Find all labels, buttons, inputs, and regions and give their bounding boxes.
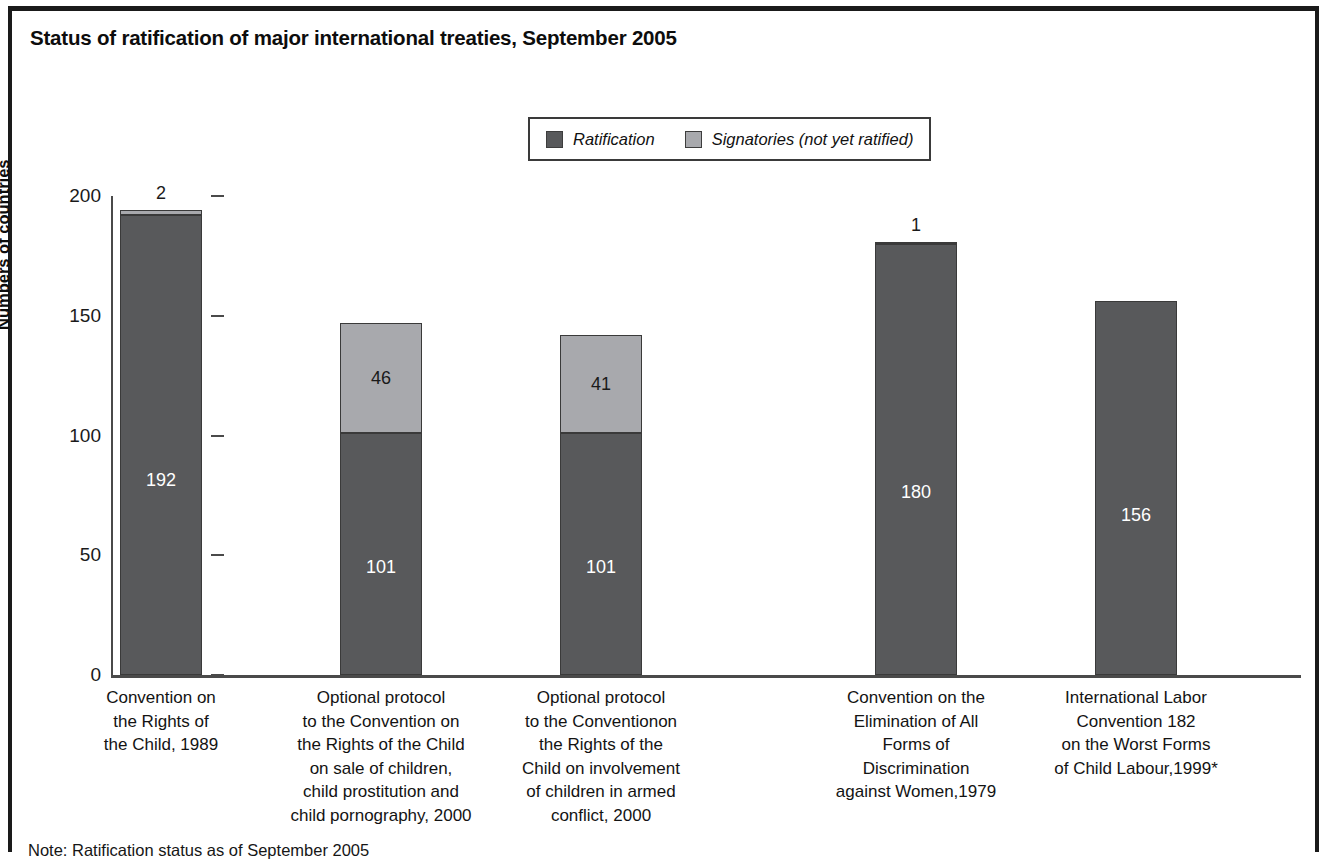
bar-segment-ratification[interactable] xyxy=(340,433,422,675)
x-axis-label-line: the Child, 1989 xyxy=(53,733,269,757)
x-axis-label-line: the Rights of the Child xyxy=(273,733,489,757)
bar-segment-signatories[interactable] xyxy=(340,323,422,433)
x-axis-label-line: to the Convention on xyxy=(273,710,489,734)
chart-title: Status of ratification of major internat… xyxy=(30,26,677,50)
y-tick-mark xyxy=(211,674,224,676)
bar-segment-signatories[interactable] xyxy=(120,210,202,215)
x-axis-label-line: Child on involvement xyxy=(493,757,709,781)
x-axis-label-line: against Women,1979 xyxy=(808,780,1024,804)
bar-segment-ratification[interactable] xyxy=(1095,301,1177,675)
bar-value-signatories: 2 xyxy=(120,183,202,204)
x-axis-label-line: conflict, 2000 xyxy=(493,804,709,828)
frame-top-rule xyxy=(8,6,1319,11)
y-tick-mark xyxy=(211,315,224,317)
x-axis-label-line: the Rights of xyxy=(53,710,269,734)
chart-footnote: Note: Ratification status as of Septembe… xyxy=(28,841,369,860)
bar-segment-ratification[interactable] xyxy=(560,433,642,675)
x-axis-label-line: the Rights of the xyxy=(493,733,709,757)
x-axis-label-line: Optional protocol xyxy=(273,686,489,710)
x-axis-label-line: Convention on the xyxy=(808,686,1024,710)
legend-label-signatories: Signatories (not yet ratified) xyxy=(712,130,914,149)
bar-optional-protocol-armed-conflict-2000[interactable]: 10141 xyxy=(560,196,642,675)
x-axis-label-line: of Child Labour,1999* xyxy=(1028,757,1244,781)
legend-item-signatories: Signatories (not yet ratified) xyxy=(685,130,914,149)
x-axis-label-line: Elimination of All xyxy=(808,710,1024,734)
x-axis-label: International LaborConvention 182on the … xyxy=(1028,686,1244,780)
x-axis-label-line: child prostitution and xyxy=(273,780,489,804)
x-axis-label-line: Convention 182 xyxy=(1028,710,1244,734)
bar-optional-protocol-sale-of-children-2000[interactable]: 10146 xyxy=(340,196,422,675)
y-tick-label: 200 xyxy=(11,185,101,207)
y-tick-label: 150 xyxy=(11,305,101,327)
x-axis-label-line: of children in armed xyxy=(493,780,709,804)
x-axis-label-line: International Labor xyxy=(1028,686,1244,710)
y-tick-mark xyxy=(211,195,224,197)
bar-segment-signatories[interactable] xyxy=(875,242,957,244)
bar-ilo-convention-182-1999[interactable]: 156 xyxy=(1095,196,1177,675)
x-axis-label: Convention onthe Rights ofthe Child, 198… xyxy=(53,686,269,757)
x-axis-label-line: Convention on xyxy=(53,686,269,710)
chart-legend: Ratification Signatories (not yet ratifi… xyxy=(528,117,931,161)
legend-swatch-ratification xyxy=(546,131,563,148)
x-axis-label: Convention on theElimination of AllForms… xyxy=(808,686,1024,804)
x-axis-label-line: on the Worst Forms xyxy=(1028,733,1244,757)
x-axis-label-line: Discrimination xyxy=(808,757,1024,781)
legend-label-ratification: Ratification xyxy=(573,130,655,149)
y-tick-label: 100 xyxy=(11,425,101,447)
bar-value-signatories: 1 xyxy=(875,215,957,236)
x-axis-label-line: Optional protocol xyxy=(493,686,709,710)
bar-convention-rights-child-1989[interactable]: 1922 xyxy=(120,196,202,675)
plot-area: 050100150200 192210146101411801156 xyxy=(112,196,1298,675)
x-axis-label: Optional protocolto the Convention onthe… xyxy=(273,686,489,827)
x-axis-line xyxy=(111,675,1301,678)
y-tick-mark xyxy=(211,435,224,437)
frame-right-rule xyxy=(1315,6,1319,852)
x-axis-label-line: on sale of children, xyxy=(273,757,489,781)
x-axis-label: Optional protocolto the Conventiononthe … xyxy=(493,686,709,827)
bar-cedaw-1979[interactable]: 1801 xyxy=(875,196,957,675)
bar-segment-signatories[interactable] xyxy=(560,335,642,433)
bar-segment-ratification[interactable] xyxy=(120,215,202,675)
y-tick-label: 0 xyxy=(11,664,101,686)
legend-item-ratification: Ratification xyxy=(546,130,655,149)
bar-segment-ratification[interactable] xyxy=(875,244,957,675)
y-tick-mark xyxy=(211,554,224,556)
x-axis-label-line: to the Conventionon xyxy=(493,710,709,734)
y-tick-label: 50 xyxy=(11,544,101,566)
x-axis-label-line: child pornography, 2000 xyxy=(273,804,489,828)
legend-swatch-signatories xyxy=(685,131,702,148)
x-axis-label-line: Forms of xyxy=(808,733,1024,757)
